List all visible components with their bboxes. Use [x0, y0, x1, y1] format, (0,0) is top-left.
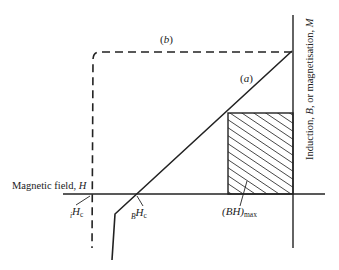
curve-a-label: (a) [240, 73, 253, 84]
curve-b-label: (b) [160, 34, 173, 45]
normal-coercivity-label: BHc [131, 207, 147, 221]
max-energy-product-label: (BH)max [222, 206, 257, 219]
vertical-axis-label: Induction, B, or magnetisation, M [305, 19, 316, 160]
ihc-leader-line [76, 196, 90, 205]
horizontal-axis-label: Magnetic field, H [12, 181, 86, 192]
intrinsic-coercivity-label: iHc [70, 206, 83, 220]
bhc-leader-line [137, 196, 143, 206]
curve-a-solid [112, 51, 292, 260]
